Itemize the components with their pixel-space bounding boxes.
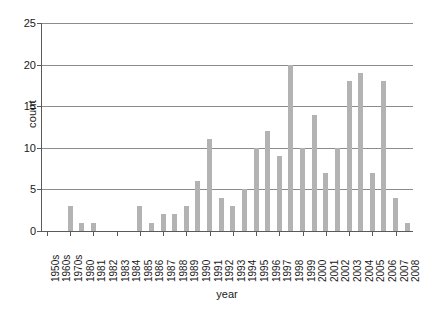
x-tick-label-1996: 1996 xyxy=(272,260,282,282)
x-tick-mark-1987 xyxy=(163,232,164,236)
x-tick-mark-1997 xyxy=(279,232,280,236)
y-tick-label-20: 20 xyxy=(10,60,36,71)
y-axis-tick-labels: 0510152025 xyxy=(8,0,36,310)
y-tick-mark-5 xyxy=(37,189,41,190)
y-tick-mark-15 xyxy=(37,106,41,107)
x-tick-label-2004: 2004 xyxy=(365,260,375,282)
bar-1990 xyxy=(195,181,200,231)
x-tick-label-1985: 1985 xyxy=(144,260,154,282)
cut-off-header-text xyxy=(0,0,440,5)
bar-2005 xyxy=(370,173,375,231)
x-tick-mark-1950s xyxy=(47,232,48,236)
x-tick-label-1960s: 1960s xyxy=(62,255,72,282)
x-tick-label-1982: 1982 xyxy=(109,260,119,282)
bar-2004 xyxy=(358,73,363,231)
x-tick-label-1992: 1992 xyxy=(225,260,235,282)
x-tick-label-1983: 1983 xyxy=(121,260,131,282)
x-tick-label-1999: 1999 xyxy=(307,260,317,282)
y-tick-mark-20 xyxy=(37,65,41,66)
x-tick-label-1986: 1986 xyxy=(155,260,165,282)
bar-2003 xyxy=(347,81,352,231)
x-axis-tick-labels: 1950s1960s1970s1980198119821983198419851… xyxy=(41,238,413,284)
y-tick-label-5: 5 xyxy=(10,184,36,195)
x-tick-label-2005: 2005 xyxy=(376,260,386,282)
x-tick-mark-1993 xyxy=(233,232,234,236)
x-tick-mark-2007 xyxy=(396,232,397,236)
bar-1980 xyxy=(79,223,84,231)
bar-1989 xyxy=(184,206,189,231)
x-tick-mark-2005 xyxy=(372,232,373,236)
x-tick-mark-1970s xyxy=(70,232,71,236)
x-tick-mark-1983 xyxy=(117,232,118,236)
x-tick-label-2002: 2002 xyxy=(341,260,351,282)
y-tick-label-15: 15 xyxy=(10,101,36,112)
x-tick-label-2008: 2008 xyxy=(411,260,421,282)
x-tick-mark-2003 xyxy=(349,232,350,236)
bar-1996 xyxy=(265,131,270,231)
bar-chart-figure: count 0510152025 1950s1960s1970s19801981… xyxy=(0,0,440,310)
x-tick-label-1981: 1981 xyxy=(97,260,107,282)
x-tick-label-1990: 1990 xyxy=(202,260,212,282)
x-tick-mark-1999 xyxy=(303,232,304,236)
x-tick-label-2007: 2007 xyxy=(400,260,410,282)
x-axis-title: year xyxy=(41,288,413,300)
y-tick-label-10: 10 xyxy=(10,143,36,154)
bar-2001 xyxy=(323,173,328,231)
x-tick-label-2003: 2003 xyxy=(353,260,363,282)
x-tick-label-1984: 1984 xyxy=(132,260,142,282)
x-tick-mark-2001 xyxy=(326,232,327,236)
bar-1999 xyxy=(300,148,305,231)
x-tick-label-1980: 1980 xyxy=(86,260,96,282)
x-tick-mark-1991 xyxy=(210,232,211,236)
x-tick-label-1989: 1989 xyxy=(190,260,200,282)
bar-1997 xyxy=(277,156,282,231)
bar-1998 xyxy=(288,65,293,231)
bar-1992 xyxy=(219,198,224,231)
x-tick-label-2000: 2000 xyxy=(318,260,328,282)
bar-2007 xyxy=(393,198,398,231)
bar-1993 xyxy=(230,206,235,231)
bar-series xyxy=(41,23,413,232)
bar-1995 xyxy=(254,148,259,231)
bar-1986 xyxy=(149,223,154,231)
x-tick-label-1998: 1998 xyxy=(295,260,305,282)
bar-1988 xyxy=(172,214,177,231)
bar-2000 xyxy=(312,115,317,231)
x-tick-mark-1985 xyxy=(140,232,141,236)
x-tick-label-1997: 1997 xyxy=(283,260,293,282)
x-tick-label-2006: 2006 xyxy=(388,260,398,282)
bar-1981 xyxy=(91,223,96,231)
x-tick-label-1950s: 1950s xyxy=(51,255,61,282)
bar-1970s xyxy=(68,206,73,231)
bar-2008 xyxy=(405,223,410,231)
y-tick-mark-25 xyxy=(37,23,41,24)
y-tick-mark-10 xyxy=(37,148,41,149)
bar-2002 xyxy=(335,148,340,231)
y-tick-mark-0 xyxy=(37,231,41,232)
x-tick-mark-1995 xyxy=(256,232,257,236)
x-tick-mark-1981 xyxy=(93,232,94,236)
x-tick-label-1987: 1987 xyxy=(167,260,177,282)
bar-1985 xyxy=(137,206,142,231)
x-tick-label-1988: 1988 xyxy=(179,260,189,282)
x-tick-label-2001: 2001 xyxy=(330,260,340,282)
bar-1991 xyxy=(207,139,212,231)
x-tick-label-1991: 1991 xyxy=(214,260,224,282)
x-tick-label-1993: 1993 xyxy=(237,260,247,282)
bar-2006 xyxy=(381,81,386,231)
bar-1994 xyxy=(242,189,247,231)
plot-area xyxy=(41,23,413,232)
x-tick-label-1994: 1994 xyxy=(248,260,258,282)
y-tick-label-25: 25 xyxy=(10,18,36,29)
x-tick-mark-1989 xyxy=(186,232,187,236)
x-tick-label-1995: 1995 xyxy=(260,260,270,282)
bar-1987 xyxy=(161,214,166,231)
y-tick-label-0: 0 xyxy=(10,226,36,237)
x-tick-label-1970s: 1970s xyxy=(74,255,84,282)
